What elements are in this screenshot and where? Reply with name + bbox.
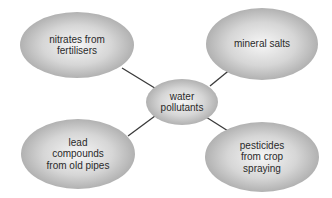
- node-label-bottom-right: pesticides from crop spraying: [212, 131, 312, 183]
- node-label-top-left: nitrates from fertilisers: [27, 22, 127, 68]
- node-label-top-right: mineral salts: [212, 21, 312, 67]
- node-label-bottom-left: lead compounds from old pipes: [28, 128, 128, 180]
- center-label: water pollutants: [147, 80, 217, 124]
